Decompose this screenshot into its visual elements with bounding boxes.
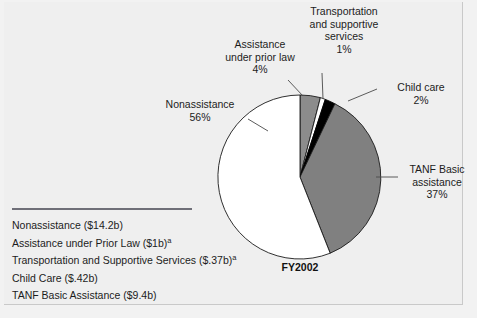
- legend-item-tanf-basic-assistance: TANF Basic Assistance ($9.4b): [12, 287, 262, 305]
- callout-nonassistance-label: Nonassistance: [166, 98, 235, 110]
- callout-child-care-label: Child care: [397, 81, 444, 93]
- callout-child-care-percent: 2%: [380, 94, 462, 107]
- legend-divider: [12, 208, 192, 210]
- callout-assistance-under-prior-law-line2: under prior law: [215, 51, 305, 64]
- callout-nonassistance-percent: 56%: [152, 111, 248, 124]
- figure-container: Nonassistance 56% Assistance under prior…: [0, 0, 477, 318]
- callout-transportation-line3: services: [300, 30, 388, 43]
- legend-item-assistance-under-prior-law-text: Assistance under Prior Law ($1b): [12, 237, 167, 249]
- callout-assistance-under-prior-law-percent: 4%: [215, 63, 305, 76]
- leader-line-child-care: [348, 89, 377, 101]
- callout-tanf-basic-assistance: TANF Basic assistance 37%: [400, 163, 474, 201]
- callout-transportation-percent: 1%: [300, 43, 388, 56]
- callout-nonassistance: Nonassistance 56%: [152, 98, 248, 123]
- leader-line-transportation-and-supportive-services: [322, 73, 323, 99]
- legend-item-transportation-and-supportive-services: Transportation and Supportive Services (…: [12, 252, 262, 270]
- callout-tanf-percent: 37%: [400, 188, 474, 201]
- callout-tanf-line2: assistance: [400, 176, 474, 189]
- callout-assistance-under-prior-law: Assistance under prior law 4%: [215, 38, 305, 76]
- callout-transportation-and-supportive-services: Transportation and supportive services 1…: [300, 5, 388, 55]
- legend-item-assistance-under-prior-law-footnote: a: [167, 235, 171, 244]
- chart-year-label: FY2002: [258, 261, 342, 273]
- legend-item-child-care: Child Care ($.42b): [12, 270, 262, 288]
- leader-line-assistance-under-prior-law: [288, 80, 303, 96]
- callout-child-care: Child care 2%: [380, 81, 462, 106]
- callout-transportation-line2: and supportive: [300, 18, 388, 31]
- legend-item-child-care-text: Child Care ($.42b): [12, 272, 98, 284]
- callout-transportation-line1: Transportation: [310, 5, 377, 17]
- legend: Nonassistance ($14.2b) Assistance under …: [12, 208, 262, 305]
- callout-tanf-line1: TANF Basic: [409, 163, 464, 175]
- callout-assistance-under-prior-law-line1: Assistance: [235, 38, 286, 50]
- legend-item-assistance-under-prior-law: Assistance under Prior Law ($1b)a: [12, 235, 262, 253]
- legend-item-nonassistance-text: Nonassistance ($14.2b): [12, 219, 123, 231]
- legend-item-transportation-footnote: a: [232, 253, 236, 262]
- legend-item-nonassistance: Nonassistance ($14.2b): [12, 217, 262, 235]
- legend-item-tanf-basic-assistance-text: TANF Basic Assistance ($9.4b): [12, 289, 157, 301]
- legend-item-transportation-text: Transportation and Supportive Services (…: [12, 254, 232, 266]
